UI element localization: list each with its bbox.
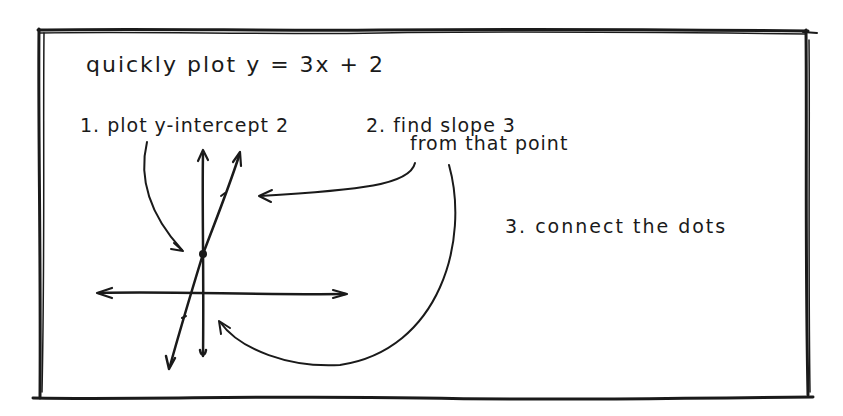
step-1-label: 1. plot y-intercept 2 [80, 114, 289, 136]
sketch-title: quickly plot y = 3x + 2 [86, 52, 385, 77]
arrow-to-intercept [144, 142, 183, 251]
x-axis [97, 288, 347, 298]
y-intercept-dot [199, 250, 207, 258]
arrow-slope-from-point [259, 163, 415, 202]
step-3-label: 3. connect the dots [505, 215, 727, 237]
arrow-connect-dots [219, 165, 455, 365]
slope-tick-mark [182, 316, 186, 318]
step-2-sublabel: from that point [410, 132, 568, 154]
